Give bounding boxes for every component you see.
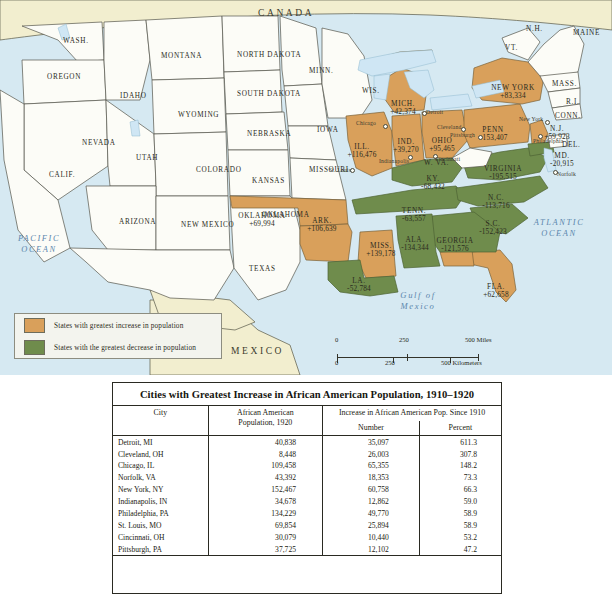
cell-number: 12,862: [323, 496, 420, 508]
table-row: Philadelphia, PA134,22949,77058.9: [113, 508, 501, 520]
table-row: Indianapolis, IN34,67812,86259.0: [113, 496, 501, 508]
country-label-mexico: MEXICO: [231, 346, 284, 356]
scale-row-miles: 0 250 500 Miles: [335, 338, 505, 353]
cell-percent: 58.9: [419, 519, 501, 531]
legend-row-decrease: States with the greatest decrease in pop…: [15, 336, 221, 358]
legend-swatch-increase: [24, 318, 45, 333]
city-label-chicago: Chicago: [356, 120, 376, 126]
cell-city: Chicago, IL: [113, 460, 208, 472]
scale-miles-500: 500 Miles: [465, 336, 492, 343]
city-label-indianapolis: Indianapolis: [379, 158, 409, 164]
col-header-population: African American Population, 1920: [208, 406, 322, 436]
state-ky: KY.-68,432: [407, 175, 459, 191]
cell-population: 134,229: [208, 508, 322, 520]
state-ala: ALA.-134,344: [389, 236, 441, 252]
cell-population: 30,079: [208, 531, 322, 543]
cell-percent: 73.3: [419, 472, 501, 484]
cell-population: 8,448: [208, 448, 322, 460]
cell-population: 43,392: [208, 472, 322, 484]
state-virginia: VIRGINIA-195,515: [477, 165, 529, 181]
cell-city: Pittsburgh, PA: [113, 543, 208, 555]
city-dot-chicago: [383, 124, 388, 129]
state-s-c: S.C.-152,423: [467, 220, 519, 236]
col-header-population-line2: Population, 1920: [238, 418, 292, 427]
cell-number: 12,102: [323, 543, 420, 555]
city-label-new-york: New York: [519, 116, 543, 122]
city-label-cleveland: Cleveland: [437, 124, 461, 130]
col-header-increase-group: Increase in African American Pop. Since …: [323, 406, 502, 421]
col-header-population-line1: African American: [237, 408, 294, 417]
cell-city: Norfolk, VA: [113, 472, 208, 484]
state-value-ohio: +95,465: [416, 145, 468, 153]
cell-number: 60,758: [323, 484, 420, 496]
col-header-number: Number: [323, 421, 420, 436]
city-label-philadelphia: Philadelphia: [533, 138, 563, 144]
legend-swatch-decrease: [24, 340, 45, 355]
state-value-virginia: -195,515: [477, 173, 529, 181]
state-value-md: -20,915: [536, 160, 588, 168]
cell-city: New York, NY: [113, 484, 208, 496]
legend-row-increase: States with greatest increase in populat…: [15, 314, 221, 336]
map-panel: .land{fill:#fcfcf7;stroke:#54544a;stroke…: [0, 0, 612, 375]
cities-table: City African American Population, 1920 I…: [113, 405, 501, 556]
state-value-oklahoma: +69,994: [236, 220, 288, 228]
cell-number: 49,770: [323, 508, 420, 520]
gulf-of-mexico-text: Gulf of Mexico: [400, 290, 435, 311]
table-row: Chicago, IL109,45865,355148.2: [113, 460, 501, 472]
table-row: St. Louis, MO69,85425,89458.9: [113, 519, 501, 531]
cell-percent: 307.8: [419, 448, 501, 460]
scale-tick-mid: [407, 354, 408, 361]
pacific-ocean-text: PACIFIC OCEAN: [18, 234, 60, 254]
state-md: MD.-20,915: [536, 152, 588, 168]
state-ohio: OHIO+95,465: [416, 137, 468, 153]
state-value-ark: +106,639: [296, 225, 348, 233]
state-la: LA.-52,784: [333, 277, 385, 293]
country-label-canada: CANADA: [258, 8, 314, 18]
state-value-tenn: -63,557: [388, 215, 440, 223]
cell-percent: 611.3: [419, 436, 501, 448]
cell-city: Cincinnati, OH: [113, 531, 208, 543]
state-value-fla: +62,658: [470, 291, 522, 299]
cell-population: 69,854: [208, 519, 322, 531]
table-header-group-row: City African American Population, 1920 I…: [113, 406, 501, 421]
table-row: Cincinnati, OH30,07910,44053.2: [113, 531, 501, 543]
state-value-new-york: +83,334: [487, 92, 539, 100]
data-table-panel: Cities with Greatest Increase in African…: [112, 382, 502, 594]
cell-percent: 47.2: [419, 543, 501, 555]
table-row: New York, NY152,46760,75866.3: [113, 484, 501, 496]
table-row: Pittsburgh, PA37,72512,10247.2: [113, 543, 501, 555]
table-row: Detroit, MI40,83835,097611.3: [113, 436, 501, 448]
table-body: Detroit, MI40,83835,097611.3Cleveland, O…: [113, 436, 501, 556]
ocean-label-pacific: PACIFIC OCEAN: [6, 234, 72, 255]
cell-percent: 58.9: [419, 508, 501, 520]
state-oklahoma: OKLAHOMA+69,994: [236, 212, 288, 228]
cell-city: Cleveland, OH: [113, 448, 208, 460]
cell-number: 18,353: [323, 472, 420, 484]
cell-percent: 59.0: [419, 496, 501, 508]
city-label-pittsburgh: Pittsburgh: [450, 132, 475, 138]
state-value-ky: -68,432: [407, 183, 459, 191]
cell-city: Detroit, MI: [113, 436, 208, 448]
state-n-c: N.C.-113,716: [470, 194, 522, 210]
ocean-label-atlantic: ATLANTIC OCEAN: [516, 218, 602, 239]
city-label-detroit: Detroit: [426, 109, 443, 115]
table-head: City African American Population, 1920 I…: [113, 406, 501, 436]
scale-row-kilometers: 0 250 500 Kilometers: [335, 363, 505, 375]
state-value-n-c: -113,716: [470, 202, 522, 210]
city-label-cincinnati: Cincinnati: [435, 156, 460, 162]
cell-percent: 148.2: [419, 460, 501, 472]
state-fla: FLA.+62,658: [470, 283, 522, 299]
col-header-city: City: [113, 406, 208, 436]
ocean-label-gulf: Gulf of Mexico: [386, 290, 450, 311]
table-row: Norfolk, VA43,39218,35373.3: [113, 472, 501, 484]
cell-population: 109,458: [208, 460, 322, 472]
atlantic-ocean-text: ATLANTIC OCEAN: [534, 218, 585, 238]
city-dot-new-york: [545, 120, 550, 125]
cell-number: 10,440: [323, 531, 420, 543]
table-title: Cities with Greatest Increase in African…: [113, 383, 501, 405]
cell-population: 152,467: [208, 484, 322, 496]
scale-km-500: 500 Kilometers: [441, 359, 482, 366]
cell-number: 35,097: [323, 436, 420, 448]
cell-number: 65,355: [323, 460, 420, 472]
scale-miles-0: 0: [335, 336, 338, 343]
